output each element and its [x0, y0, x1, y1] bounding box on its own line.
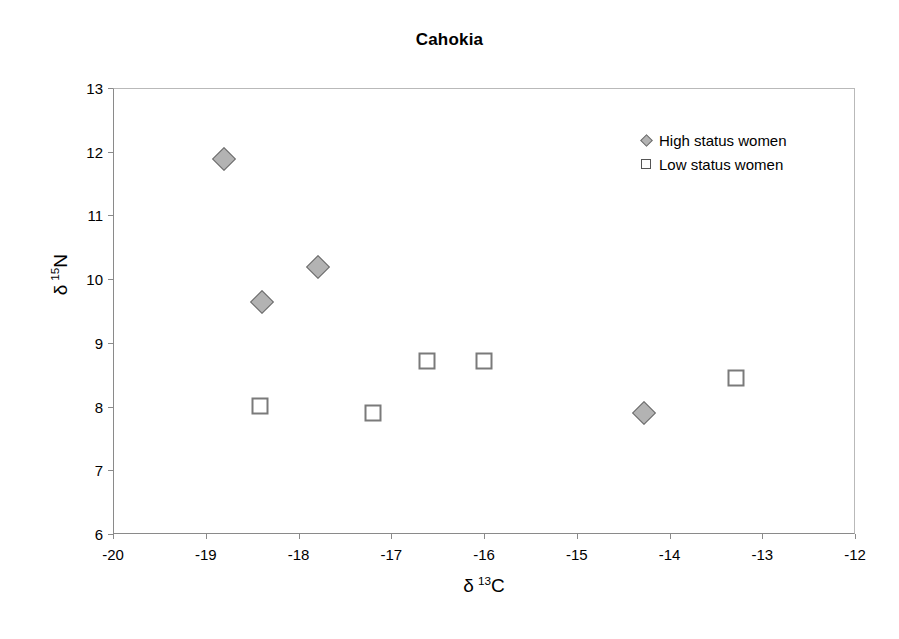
square-marker-icon	[636, 159, 656, 169]
diamond-marker-icon	[636, 136, 656, 145]
y-tick-label: 10	[67, 271, 103, 288]
data-point-square	[364, 404, 381, 421]
x-axis-title-superscript: 13	[478, 574, 491, 587]
x-tick-label: -13	[751, 546, 773, 563]
y-tick-mark	[108, 343, 113, 344]
data-point-diamond	[212, 147, 236, 171]
x-tick-label: -16	[473, 546, 495, 563]
y-axis-title: δ15N	[48, 215, 71, 335]
y-axis-title-symbol: δ	[50, 285, 71, 296]
page-caption-fragment	[0, 630, 899, 639]
y-tick-label: 12	[67, 143, 103, 160]
y-tick-mark	[108, 88, 113, 89]
legend-entry-low-status-women: Low status women	[636, 152, 787, 176]
x-tick-label: -14	[659, 546, 681, 563]
y-axis-title-element: N	[50, 254, 71, 268]
legend-entry-high-status-women: High status women	[636, 128, 787, 152]
x-tick-label: -18	[288, 546, 310, 563]
y-tick-mark	[108, 215, 113, 216]
legend-label-low-status-women: Low status women	[656, 156, 783, 173]
y-tick-label: 11	[67, 207, 103, 224]
x-tick-mark	[855, 534, 856, 539]
x-tick-mark	[670, 534, 671, 539]
y-tick-mark	[108, 470, 113, 471]
x-tick-label: -12	[844, 546, 866, 563]
x-tick-mark	[113, 534, 114, 539]
y-tick-label: 13	[67, 80, 103, 97]
x-tick-mark	[206, 534, 207, 539]
y-tick-mark	[108, 534, 113, 535]
x-tick-mark	[391, 534, 392, 539]
data-point-square	[728, 370, 745, 387]
x-axis-title-symbol: δ	[463, 575, 474, 596]
x-axis-title: δ13C	[113, 574, 855, 597]
y-tick-label: 6	[67, 526, 103, 543]
data-point-diamond	[632, 401, 656, 425]
data-point-square	[476, 353, 493, 370]
x-axis-title-element: C	[491, 575, 505, 596]
x-tick-mark	[484, 534, 485, 539]
x-tick-label: -19	[195, 546, 217, 563]
y-tick-label: 7	[67, 462, 103, 479]
x-tick-mark	[577, 534, 578, 539]
x-tick-mark	[299, 534, 300, 539]
data-point-square	[418, 353, 435, 370]
chart-figure: Cahokia -20-19-18-17-16-15-14-13-12 6789…	[0, 0, 899, 639]
y-tick-mark	[108, 407, 113, 408]
x-tick-label: -20	[102, 546, 124, 563]
data-point-diamond	[250, 290, 274, 314]
chart-title: Cahokia	[0, 30, 899, 50]
y-tick-label: 9	[67, 334, 103, 351]
data-point-diamond	[306, 255, 330, 279]
legend-label-high-status-women: High status women	[656, 132, 787, 149]
y-tick-label: 8	[67, 398, 103, 415]
y-tick-mark	[108, 279, 113, 280]
x-tick-label: -15	[566, 546, 588, 563]
data-point-square	[251, 398, 268, 415]
y-axis-title-superscript: 15	[48, 268, 61, 281]
chart-legend: High status women Low status women	[636, 128, 787, 176]
x-tick-label: -17	[380, 546, 402, 563]
x-tick-mark	[762, 534, 763, 539]
y-tick-mark	[108, 152, 113, 153]
